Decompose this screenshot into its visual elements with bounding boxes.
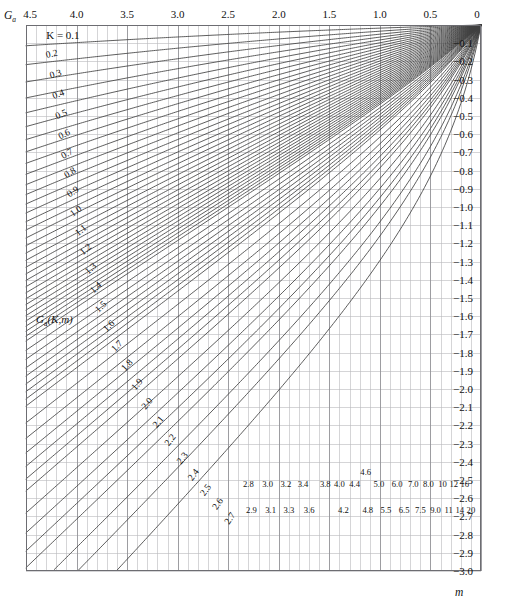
x-tick-label-0.5: 0.5 [424,8,438,20]
y-tick-label--1.0: −1.0 [453,201,473,213]
y-tick-label--0.7: −0.7 [453,146,473,158]
y-tick-label--2.8: −2.8 [453,529,473,541]
x-axis-name: m [455,586,463,598]
x-tick-label-3.0: 3.0 [171,8,185,20]
y-tick-label--0.6: −0.6 [453,128,473,140]
curve-label-K-7.0: 7.0 [408,479,419,489]
curve-label-K-3.1: 3.1 [265,505,276,515]
curve-label-K-14: 14 [455,505,464,515]
curve-label-K-6.0: 6.0 [392,479,403,489]
y-tick-label--0.8: −0.8 [453,165,473,177]
x-tick-label-0: 0 [474,8,480,20]
x-tick-label-2.5: 2.5 [221,8,235,20]
curve-label-K-6.5: 6.5 [399,505,410,515]
y-tick-label--1.1: −1.1 [453,219,473,231]
y-tick-label--0.2: −0.2 [453,55,473,67]
x-tick-label-1.5: 1.5 [322,8,336,20]
y-tick-label--1.3: −1.3 [453,256,473,268]
curve-label-K-4.4: 4.4 [349,479,360,489]
x-tick-label-1.0: 1.0 [373,8,387,20]
nomogram-svg: 4.54.03.53.02.52.01.51.00.50−0.1−0.2−0.3… [0,0,509,606]
y-tick-label--3.0: −3.0 [453,565,473,577]
curve-label-K-2.9: 2.9 [246,505,257,515]
y-tick-label--0.9: −0.9 [453,183,473,195]
y-tick-label--0.1: −0.1 [453,37,473,49]
curve-label-K-16: 16 [461,479,470,489]
curve-label-K-8.0: 8.0 [423,479,434,489]
y-tick-label--1.5: −1.5 [453,292,473,304]
y-tick-label--0.4: −0.4 [453,92,473,104]
curve-label-K-12: 12 [449,479,458,489]
y-tick-label--2.9: −2.9 [453,547,473,559]
curve-label-K-4.6: 4.6 [360,467,371,477]
curve-label-K-4.0: 4.0 [334,479,345,489]
curve-label-K-5.0: 5.0 [374,479,385,489]
y-tick-label--1.7: −1.7 [453,328,473,340]
y-tick-label--1.4: −1.4 [453,274,473,286]
curve-label-K-4.8: 4.8 [362,505,373,515]
curve-label-K-7.5: 7.5 [415,505,426,515]
x-tick-label-2.0: 2.0 [272,8,286,20]
y-tick-label--2.2: −2.2 [453,419,473,431]
curve-label-K-3.0: 3.0 [262,479,273,489]
nomogram-figure: 4.54.03.53.02.52.01.51.00.50−0.1−0.2−0.3… [0,0,509,606]
curve-label-K-3.4: 3.4 [298,479,309,489]
y-tick-label--2.0: −2.0 [453,383,473,395]
y-tick-label--1.8: −1.8 [453,347,473,359]
y-tick-label--0.3: −0.3 [453,74,473,86]
annotation-k-start: K = 0.1 [46,29,79,41]
curve-label-K-11: 11 [445,505,453,515]
curve-label-K-20: 20 [467,505,476,515]
y-tick-label--2.1: −2.1 [453,401,473,413]
x-tick-label-3.5: 3.5 [120,8,134,20]
y-tick-label--2.4: −2.4 [453,456,473,468]
curve-label-K-2.8: 2.8 [243,479,254,489]
y-tick-label--2.6: −2.6 [453,492,473,504]
y-tick-label--2.3: −2.3 [453,438,473,450]
y-tick-label--1.2: −1.2 [453,237,473,249]
curve-label-K-4.2: 4.2 [338,505,349,515]
curve-label-K-9.0: 9.0 [430,505,441,515]
y-tick-label--0.5: −0.5 [453,110,473,122]
curve-label-K-5.5: 5.5 [381,505,392,515]
curve-label-K-3.8: 3.8 [320,479,331,489]
curve-label-K-3.3: 3.3 [284,505,295,515]
curve-label-K-10: 10 [438,479,447,489]
y-tick-label--1.9: −1.9 [453,365,473,377]
x-tick-label-4.5: 4.5 [23,8,37,20]
x-tick-label-4.0: 4.0 [70,8,84,20]
curve-label-K-3.6: 3.6 [304,505,315,515]
y-tick-label--1.6: −1.6 [453,310,473,322]
curve-label-K-3.2: 3.2 [280,479,291,489]
